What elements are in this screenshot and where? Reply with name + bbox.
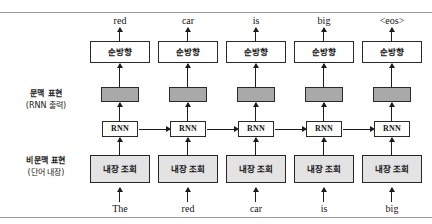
arrow-context-to-forward	[119, 64, 120, 87]
context-representation-box	[305, 87, 343, 102]
forward-cell-box: 순방향	[226, 41, 286, 63]
recurrent-arrow	[343, 129, 374, 130]
rnn-cell-box: RNN	[238, 121, 274, 137]
embedding-lookup-box: 내장 조회	[294, 155, 354, 183]
input-token: red	[157, 203, 219, 214]
recurrent-arrow	[275, 129, 306, 130]
output-token: <eos>	[361, 15, 423, 26]
output-token: big	[293, 15, 355, 26]
timestep-column: big 순방향 RNN 내장 조회 is	[293, 0, 355, 224]
arrow-context-to-forward	[323, 64, 324, 87]
arrow-input-to-embedding	[255, 188, 256, 202]
arrow-rnn-to-context	[323, 103, 324, 121]
rnn-cell-box: RNN	[306, 121, 342, 137]
context-representation-box	[101, 87, 139, 102]
row-label-noncontext: 비문맥 표현 (단어 내장)	[4, 155, 88, 179]
arrow-rnn-to-context	[187, 103, 188, 121]
row-label-noncontext-main: 비문맥 표현	[26, 156, 66, 165]
row-label-context-main: 문맥 표현	[30, 89, 62, 98]
input-token: big	[361, 203, 423, 214]
input-token: car	[225, 203, 287, 214]
row-label-noncontext-sub: (단어 내장)	[4, 167, 88, 179]
figure-canvas: 문맥 표현 (RNN 출력) 비문맥 표현 (단어 내장) red 순방향 RN…	[0, 0, 432, 224]
arrow-input-to-embedding	[391, 188, 392, 202]
arrow-embedding-to-rnn	[187, 138, 188, 155]
rnn-cell-box: RNN	[102, 121, 138, 137]
timestep-column: is 순방향 RNN 내장 조회 car	[225, 0, 287, 224]
input-token: is	[293, 203, 355, 214]
arrow-input-to-embedding	[187, 188, 188, 202]
context-representation-box	[237, 87, 275, 102]
row-label-context: 문맥 표현 (RNN 출력)	[4, 88, 88, 112]
row-label-context-sub: (RNN 출력)	[4, 100, 88, 112]
output-token: red	[89, 15, 151, 26]
arrow-embedding-to-rnn	[323, 138, 324, 155]
arrow-forward-to-output	[119, 28, 120, 41]
arrow-input-to-embedding	[323, 188, 324, 202]
arrow-input-to-embedding	[119, 188, 120, 202]
timestep-column: red 순방향 RNN 내장 조회 The	[89, 0, 151, 224]
arrow-rnn-to-context	[391, 103, 392, 121]
context-representation-box	[373, 87, 411, 102]
recurrent-arrow	[139, 129, 170, 130]
embedding-lookup-box: 내장 조회	[362, 155, 422, 183]
timestep-column: car 순방향 RNN 내장 조회 red	[157, 0, 219, 224]
input-token: The	[89, 203, 151, 214]
timestep-column: <eos> 순방향 RNN 내장 조회 big	[361, 0, 423, 224]
arrow-embedding-to-rnn	[119, 138, 120, 155]
arrow-context-to-forward	[255, 64, 256, 87]
arrow-forward-to-output	[255, 28, 256, 41]
arrow-rnn-to-context	[119, 103, 120, 121]
embedding-lookup-box: 내장 조회	[158, 155, 218, 183]
embedding-lookup-box: 내장 조회	[226, 155, 286, 183]
forward-cell-box: 순방향	[90, 41, 150, 63]
arrow-rnn-to-context	[255, 103, 256, 121]
embedding-lookup-box: 내장 조회	[90, 155, 150, 183]
arrow-forward-to-output	[323, 28, 324, 41]
arrow-context-to-forward	[391, 64, 392, 87]
output-token: is	[225, 15, 287, 26]
rnn-cell-box: RNN	[374, 121, 410, 137]
forward-cell-box: 순방향	[362, 41, 422, 63]
output-token: car	[157, 15, 219, 26]
arrow-forward-to-output	[187, 28, 188, 41]
forward-cell-box: 순방향	[158, 41, 218, 63]
forward-cell-box: 순방향	[294, 41, 354, 63]
context-representation-box	[169, 87, 207, 102]
arrow-forward-to-output	[391, 28, 392, 41]
arrow-context-to-forward	[187, 64, 188, 87]
rnn-cell-box: RNN	[170, 121, 206, 137]
recurrent-arrow	[207, 129, 238, 130]
arrow-embedding-to-rnn	[391, 138, 392, 155]
arrow-embedding-to-rnn	[255, 138, 256, 155]
